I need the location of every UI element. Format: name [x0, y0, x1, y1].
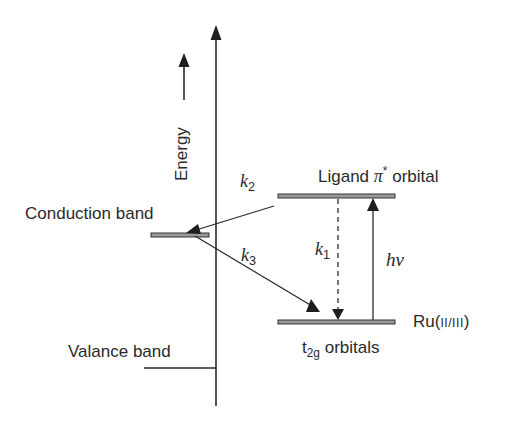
- energy-axis-label: Energy: [173, 127, 190, 181]
- k3-subscript: 3: [249, 254, 256, 268]
- k2-arrowhead-icon: [186, 224, 201, 234]
- 2g-subscript: 2g: [307, 346, 320, 360]
- conduction-band-label: Conduction band: [25, 205, 154, 222]
- hv-symbol: hν: [386, 249, 404, 270]
- k1-arrowhead-icon: [332, 309, 344, 320]
- oxidation-state-text: II/III: [440, 316, 463, 330]
- k1-symbol: k: [315, 239, 323, 259]
- k1-label: k1: [315, 240, 330, 258]
- orbitals-text: orbitals: [320, 338, 380, 357]
- ligand-text: Ligand: [318, 167, 374, 186]
- pi-symbol: π: [374, 166, 383, 186]
- axis-arrowhead-icon: [211, 25, 222, 40]
- energy-direction-arrow: [179, 53, 190, 100]
- energy-label-text: Energy: [172, 127, 191, 181]
- energy-diagram: Energy Conduction band Valance band Liga…: [0, 0, 506, 426]
- k3-arrowhead-icon: [306, 299, 320, 312]
- k2-label: k2: [240, 172, 255, 190]
- k3-arrow: [195, 236, 320, 312]
- k2-subscript: 2: [248, 180, 255, 194]
- k3-symbol: k: [241, 245, 249, 265]
- k2-symbol: k: [240, 171, 248, 191]
- energy-arrowhead-icon: [179, 53, 190, 67]
- hv-arrow: [367, 198, 379, 320]
- energy-axis: [211, 25, 222, 406]
- k2-arrow: [186, 206, 274, 234]
- ru-text: Ru(: [413, 312, 440, 331]
- t2g-bar: [278, 320, 395, 324]
- ligand-pi-star-label: Ligand π* orbital: [318, 167, 438, 185]
- orbital-text: orbital: [387, 167, 438, 186]
- close-paren-text: ): [464, 312, 470, 331]
- k1-arrow: [332, 199, 344, 320]
- ligand-pi-star-bar: [278, 194, 395, 198]
- conduction-band-text: Conduction band: [25, 204, 154, 223]
- k1-subscript: 1: [323, 248, 330, 262]
- k3-label: k3: [241, 246, 256, 264]
- t2g-orbitals-label: t2g orbitals: [302, 339, 380, 356]
- ru-oxidation-label: Ru(II/III): [413, 313, 469, 330]
- hv-label: hν: [386, 250, 404, 269]
- hv-arrowhead-icon: [367, 198, 379, 211]
- valance-band-text: Valance band: [68, 342, 171, 361]
- valance-band-label: Valance band: [68, 343, 171, 360]
